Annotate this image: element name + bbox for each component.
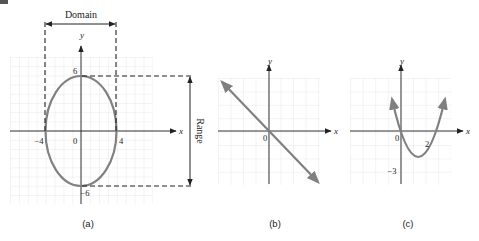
origin-label-b: 0 xyxy=(263,133,267,143)
tick-y-neg3: −3 xyxy=(387,166,396,176)
x-label-a: x xyxy=(178,126,183,136)
caption-c: (c) xyxy=(402,218,413,229)
tick-y-6: 6 xyxy=(73,66,77,76)
origin-label-a: 0 xyxy=(73,136,77,146)
y-label-a: y xyxy=(79,30,84,40)
caption-a: (a) xyxy=(82,218,94,229)
tick-x-2: 2 xyxy=(425,139,429,149)
tick-x-neg4: −4 xyxy=(34,136,44,146)
function-graphs-figure: y x Domain Range 6 −6 −4 4 0 (a) y x 0 (… xyxy=(0,0,479,241)
panel-b: y x 0 (b) xyxy=(218,56,338,229)
x-label-c: x xyxy=(465,126,470,136)
x-label-b: x xyxy=(333,126,338,136)
panel-a: y x Domain Range 6 −6 −4 4 0 (a) xyxy=(10,9,206,229)
panel-c: y x 0 2 −3 (c) xyxy=(350,56,470,229)
tick-y-neg6: −6 xyxy=(80,188,89,198)
caption-b: (b) xyxy=(269,218,281,229)
domain-label: Domain xyxy=(65,9,97,20)
origin-label-c: 0 xyxy=(395,133,399,143)
y-label-c: y xyxy=(399,56,404,66)
range-label: Range xyxy=(195,118,206,144)
y-label-b: y xyxy=(267,56,272,66)
